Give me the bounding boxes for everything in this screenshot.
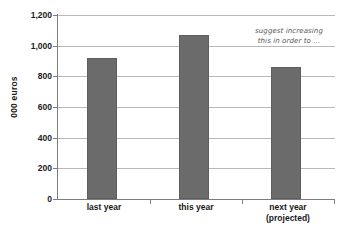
chart-annotation-line2: this in order to ... xyxy=(240,36,338,46)
x-label-last-year-line1: last year xyxy=(58,202,150,213)
x-axis-labels: last year this year next year (projected… xyxy=(58,202,335,233)
x-label-next-year-line2: (projected) xyxy=(242,213,334,224)
chart-annotation: suggest increasing this in order to ... xyxy=(240,26,338,46)
x-label-next-year: next year (projected) xyxy=(242,202,334,224)
x-axis-line xyxy=(58,199,335,200)
x-label-this-year-line1: this year xyxy=(150,202,242,213)
gridline-1200 xyxy=(58,15,335,16)
bar-chart: 000 euros 1,200 1,000 800 600 400 200 0 xyxy=(0,0,346,233)
bar-next-year xyxy=(271,67,301,199)
bar-last-year xyxy=(87,58,117,199)
x-label-next-year-line1: next year xyxy=(242,202,334,213)
x-label-last-year: last year xyxy=(58,202,150,213)
bar-this-year xyxy=(179,35,209,199)
x-label-this-year: this year xyxy=(150,202,242,213)
y-axis-ticks: 1,200 1,000 800 600 400 200 0 xyxy=(0,0,57,233)
chart-annotation-line1: suggest increasing xyxy=(240,26,338,36)
